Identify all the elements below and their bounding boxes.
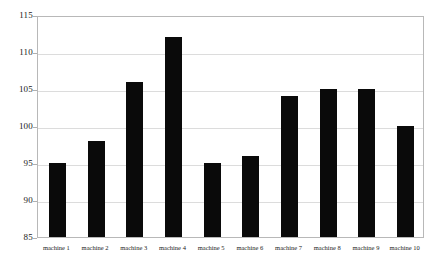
bar [204, 163, 221, 237]
bar [126, 82, 143, 237]
bar [242, 156, 259, 237]
gridline [38, 54, 423, 55]
y-axis-tick-label: 90 [11, 196, 33, 205]
y-axis-tick-label: 85 [11, 233, 33, 242]
bar [358, 89, 375, 237]
bar [397, 126, 414, 237]
bar [49, 163, 66, 237]
bar [281, 96, 298, 237]
x-axis-tick-labels: machine 1machine 2machine 3machine 4mach… [37, 243, 424, 257]
bar-chart: 859095100105110115 machine 1machine 2mac… [0, 0, 441, 269]
y-axis-tick-label: 115 [11, 11, 33, 20]
plot-area [37, 16, 424, 238]
x-axis-tick-label: machine 10 [382, 243, 428, 252]
bar [165, 37, 182, 237]
bar [88, 141, 105, 237]
y-axis-tick-labels: 859095100105110115 [8, 0, 33, 269]
y-axis-tick-label: 110 [11, 48, 33, 57]
y-axis-tick-label: 100 [11, 122, 33, 131]
bar [320, 89, 337, 237]
y-axis-tick-label: 95 [11, 159, 33, 168]
y-axis-tick-label: 105 [11, 85, 33, 94]
